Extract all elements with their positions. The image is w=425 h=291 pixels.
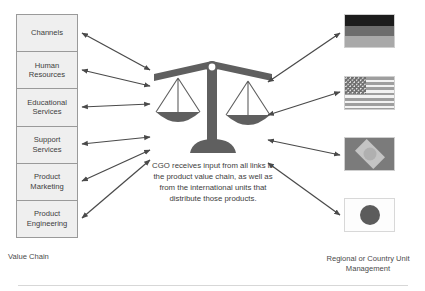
value-chain-item-label: Channels — [31, 28, 63, 38]
value-chain-item-educational-services[interactable]: Educational Services — [17, 89, 77, 126]
balance-scale-icon — [150, 58, 276, 158]
value-chain-item-label: Product Marketing — [19, 172, 75, 191]
arrow-product-engineering-to-cgo — [82, 160, 150, 218]
flag-globe — [363, 148, 376, 161]
arrow-educational-services-to-cgo — [82, 104, 150, 107]
bottom-divider — [18, 285, 408, 286]
flag-stars — [345, 77, 366, 94]
flag-band — [345, 26, 394, 37]
arrow-human-resources-to-cgo — [82, 70, 150, 86]
center-description: CGO receives input from all links in the… — [152, 160, 274, 204]
value-chain-item-human-resources[interactable]: Human Resources — [17, 52, 77, 89]
value-chain-caption: Value Chain — [8, 252, 94, 262]
value-chain-item-label: Educational Services — [19, 98, 75, 117]
japan-flag-icon[interactable] — [344, 198, 395, 232]
arrow-cgo-to-united-states — [268, 92, 340, 115]
arrow-support-services-to-cgo — [82, 137, 150, 144]
value-chain-item-channels[interactable]: Channels — [17, 15, 77, 52]
value-chain-item-label: Product Engineering — [19, 209, 75, 228]
arrow-channels-to-cgo — [82, 33, 150, 70]
flag-disc — [360, 205, 380, 225]
arrow-cgo-to-brazil — [268, 140, 340, 155]
value-chain-item-product-marketing[interactable]: Product Marketing — [17, 164, 77, 201]
value-chain-item-support-services[interactable]: Support Services — [17, 127, 77, 164]
value-chain-item-product-engineering[interactable]: Product Engineering — [17, 201, 77, 237]
diagram-canvas: Channels Human Resources Educational Ser… — [0, 0, 425, 291]
flag-band — [345, 15, 394, 26]
value-chain-item-label: Support Services — [19, 135, 75, 154]
flag-band — [345, 36, 394, 47]
germany-flag-icon[interactable] — [344, 14, 395, 48]
value-chain-column: Channels Human Resources Educational Ser… — [16, 14, 78, 238]
arrow-cgo-to-germany — [268, 33, 340, 82]
arrow-cgo-to-japan — [268, 163, 340, 215]
flag-canton — [345, 77, 366, 94]
value-chain-item-label: Human Resources — [19, 61, 75, 80]
brazil-flag-icon[interactable] — [344, 137, 395, 171]
arrow-product-marketing-to-cgo — [82, 150, 150, 181]
regional-unit-caption: Regional or Country Unit Management — [316, 254, 420, 274]
united-states-flag-icon[interactable] — [344, 76, 395, 110]
